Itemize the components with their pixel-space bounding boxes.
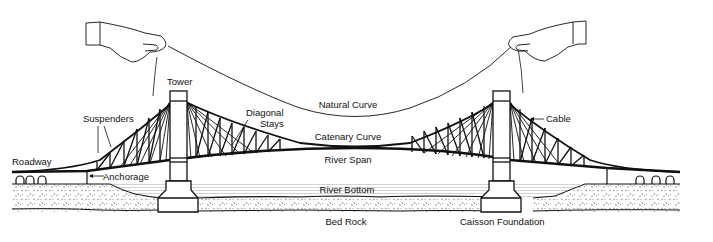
label-river-span: River Span [325,155,372,165]
left-approach-arches [16,176,46,184]
left-string-tail [153,57,157,96]
right-inner-suspenders [412,106,484,158]
label-tower: Tower [167,77,192,87]
left-hand-icon [86,22,166,62]
right-hand-icon [509,21,586,61]
anchorage-arrow-icon [89,174,104,178]
label-cable: Cable [546,114,571,124]
label-suspenders: Suspenders [83,114,134,124]
label-diagonal-stays-2: Stays [260,119,284,129]
label-catenary-curve: Catenary Curve [315,132,382,142]
label-natural-curve: Natural Curve [319,100,378,110]
left-tower-fan-stays-left [120,102,170,167]
label-caisson-foundation: Caisson Foundation [460,217,545,227]
label-anchorage: Anchorage [103,172,149,182]
label-river-bottom: River Bottom [320,185,375,195]
right-approach-arches [636,176,674,184]
label-roadway: Roadway [12,157,52,167]
right-string-tail [518,48,523,93]
label-bed-rock: Bed Rock [325,217,366,227]
label-diagonal-stays-1: Diagonal [246,108,284,118]
